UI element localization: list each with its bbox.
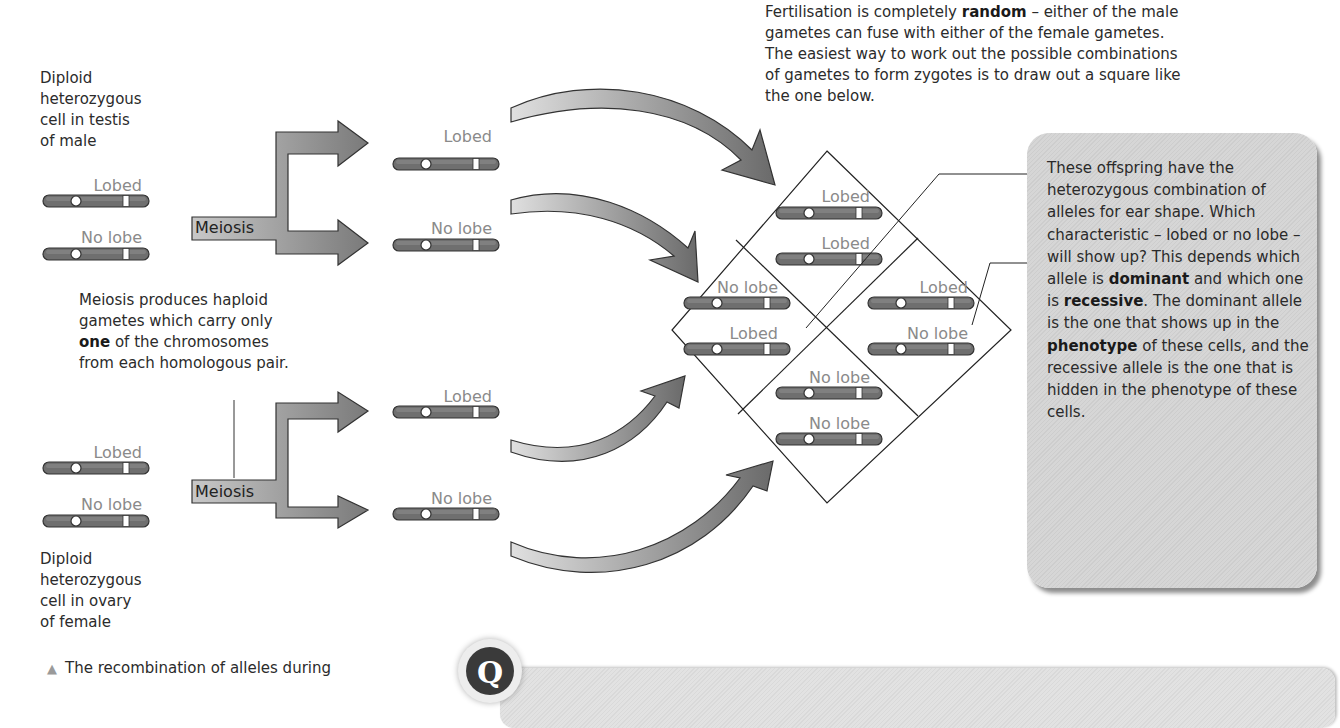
emphasis-recessive: recessive xyxy=(1064,292,1144,310)
meiosis-note-line: from each homologous pair. xyxy=(79,353,289,374)
punnett-right-label-1: Lobed xyxy=(860,279,968,297)
meiosis-note-line: Meiosis produces haploid xyxy=(79,290,289,311)
female-meiosis-label: Meiosis xyxy=(192,483,257,501)
fertilisation-note-line: of gametes to form zygotes is to draw ou… xyxy=(765,65,1325,86)
male-chromosome-label-no-lobe: No lobe xyxy=(34,229,142,247)
fertilisation-text: – either of the male xyxy=(1027,3,1179,21)
fertilisation-note-line: The easiest way to work out the possible… xyxy=(765,44,1325,65)
male-desc-line: heterozygous xyxy=(40,89,142,110)
female-chromosome-label-lobed: Lobed xyxy=(34,444,142,462)
female-desc-line: Diploid xyxy=(40,549,142,570)
fertilisation-text: Fertilisation is completely xyxy=(765,3,962,21)
dominance-callout: These offspring have the heterozygous co… xyxy=(1027,133,1317,588)
caption-text: The recombination of alleles during xyxy=(65,659,331,677)
question-icon-letter: Q xyxy=(466,647,514,695)
emphasis-random: random xyxy=(962,3,1027,21)
female-cell-description: Diploid heterozygous cell in ovary of fe… xyxy=(40,549,142,633)
caption-triangle-icon: ▲ xyxy=(47,661,57,676)
female-desc-line: cell in ovary xyxy=(40,591,142,612)
female-gamete-label-no-lobe: No lobe xyxy=(384,490,492,508)
male-meiosis-label: Meiosis xyxy=(192,219,257,237)
male-desc-line: of male xyxy=(40,131,142,152)
female-chromosome-label-no-lobe: No lobe xyxy=(34,496,142,514)
fertilisation-note-line: gametes can fuse with either of the fema… xyxy=(765,23,1325,44)
male-chromosome-label-lobed: Lobed xyxy=(34,177,142,195)
punnett-left-label-1: No lobe xyxy=(670,279,778,297)
meiosis-note: Meiosis produces haploid gametes which c… xyxy=(79,290,289,374)
fertilisation-note-line: Fertilisation is completely random – eit… xyxy=(765,2,1325,23)
meiosis-note-text: of the chromosomes xyxy=(110,333,269,351)
figure-caption: ▲The recombination of alleles during xyxy=(47,658,331,679)
male-gamete-label-lobed: Lobed xyxy=(384,128,492,146)
question-icon: Q xyxy=(458,639,522,703)
female-meiosis-branch-arrow xyxy=(192,392,368,528)
emphasis-phenotype: phenotype xyxy=(1047,337,1137,355)
punnett-right-label-2: No lobe xyxy=(860,325,968,343)
female-gamete-label-lobed: Lobed xyxy=(384,388,492,406)
meiosis-note-line: gametes which carry only xyxy=(79,311,289,332)
punnett-left-label-2: Lobed xyxy=(670,325,778,343)
female-desc-line: of female xyxy=(40,612,142,633)
question-box xyxy=(500,668,1335,728)
punnett-bottom-label-1: No lobe xyxy=(762,369,870,387)
callout-text-part: These offspring have the heterozygous co… xyxy=(1047,159,1300,288)
male-gamete-label-no-lobe: No lobe xyxy=(384,220,492,238)
fertilisation-note: Fertilisation is completely random – eit… xyxy=(765,2,1325,107)
emphasis-dominant: dominant xyxy=(1109,270,1189,288)
male-cell-description: Diploid heterozygous cell in testis of m… xyxy=(40,68,142,152)
punnett-bottom-label-2: No lobe xyxy=(762,415,870,433)
punnett-top-label-2: Lobed xyxy=(762,235,870,253)
meiosis-note-line: one of the chromosomes xyxy=(79,332,289,353)
male-desc-line: cell in testis xyxy=(40,110,142,131)
emphasis-one: one xyxy=(79,333,110,351)
punnett-top-label-1: Lobed xyxy=(762,188,870,206)
male-desc-line: Diploid xyxy=(40,68,142,89)
fertilisation-note-line: the one below. xyxy=(765,86,1325,107)
female-desc-line: heterozygous xyxy=(40,570,142,591)
callout-text: These offspring have the heterozygous co… xyxy=(1047,157,1309,423)
male-meiosis-branch-arrow xyxy=(192,121,368,265)
